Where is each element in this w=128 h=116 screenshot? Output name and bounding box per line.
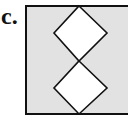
diagram-canvas bbox=[0, 0, 128, 116]
